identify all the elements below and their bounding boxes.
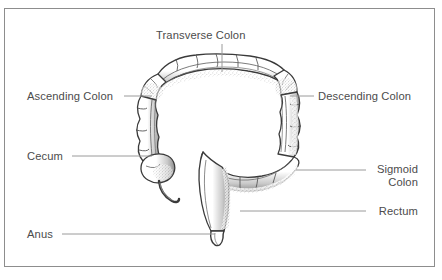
label-ascending-colon: Ascending Colon <box>27 90 113 103</box>
ascending-colon-segment <box>136 96 160 161</box>
colon-illustration <box>0 0 442 280</box>
label-rectum: Rectum <box>338 205 418 218</box>
label-cecum: Cecum <box>27 150 63 163</box>
label-sigmoid-colon: Sigmoid Colon <box>338 163 418 189</box>
cecum-segment <box>141 154 179 202</box>
transverse-colon-segment <box>158 54 284 92</box>
descending-colon-segment <box>278 92 301 157</box>
colon-body <box>136 54 301 246</box>
rectum-segment <box>199 152 230 231</box>
anus-segment <box>211 231 224 246</box>
label-anus: Anus <box>27 228 53 241</box>
label-transverse-colon: Transverse Colon <box>156 29 245 42</box>
label-descending-colon: Descending Colon <box>318 90 411 103</box>
diagram-page: Transverse Colon Ascending Colon Cecum A… <box>0 0 442 280</box>
